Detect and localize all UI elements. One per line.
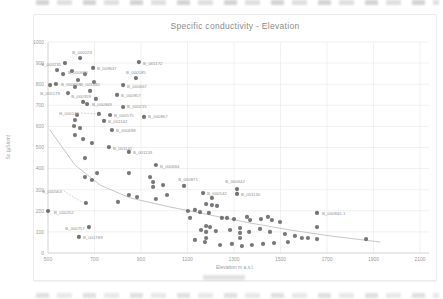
scatter-point (201, 191, 205, 195)
y-tick-label: 1000 (33, 39, 44, 45)
scatter-point (193, 208, 197, 212)
scatter-point (97, 112, 101, 116)
point-label: B_000542 (207, 191, 227, 196)
scatter-point (258, 227, 262, 231)
scatter-point (238, 226, 242, 230)
scatter-point (204, 224, 208, 228)
x-axis-title: Elevation m a.s.l. (33, 264, 437, 270)
point-label: B_000359 (71, 94, 91, 99)
scatter-point (95, 171, 99, 175)
point-label: B_001130 (241, 192, 261, 197)
scatter-point (259, 217, 263, 221)
scatter-point (283, 232, 287, 236)
scatter-point (151, 185, 155, 189)
point-label: B_001142 (108, 119, 128, 124)
scatter-point (248, 218, 252, 222)
point-label: B_001240 (80, 82, 100, 87)
scatter-point (77, 235, 81, 239)
point-label: B_001133 (133, 150, 153, 155)
scatter-point (76, 78, 80, 82)
scatter-point (220, 216, 224, 220)
point-label: B_000949 (92, 102, 112, 107)
selection-handle-smudge (203, 275, 245, 280)
scatter-point (270, 218, 274, 222)
scatter-point (66, 91, 70, 95)
point-label: B_000575 (114, 113, 134, 118)
scatter-point (238, 231, 242, 235)
point-label: B_000585 (126, 70, 146, 75)
x-tick-label: 1100 (182, 256, 193, 262)
point-label: B_000845-1 (322, 211, 346, 216)
scatter-point (204, 202, 208, 206)
x-tick-label: 500 (44, 256, 53, 262)
cutoff-text-bottom (36, 293, 439, 298)
scatter-point (208, 225, 212, 229)
scatter-point (81, 100, 85, 104)
scatter-point (300, 236, 304, 240)
scatter-point (235, 192, 239, 196)
scatter-point (198, 210, 202, 214)
scatter-point (238, 236, 242, 240)
scatter-point (225, 216, 229, 220)
scatter-point (161, 183, 165, 187)
point-label: B_000867 (148, 114, 168, 119)
scatter-point (88, 89, 92, 93)
y-tick-label: 100 (36, 229, 45, 235)
x-tick-label: 2100 (414, 256, 425, 262)
scatter-point (90, 178, 94, 182)
page-root: Specific conductivity - Elevation Sc (µS… (0, 0, 443, 299)
scatter-point (199, 228, 203, 232)
scatter-point (72, 124, 76, 128)
scatter-point (83, 156, 87, 160)
scatter-point (83, 175, 87, 179)
y-tick-label: 500 (36, 144, 45, 150)
point-label: B_001789 (83, 235, 103, 240)
scatter-point (73, 118, 77, 122)
scatter-point (293, 234, 297, 238)
scatter-point (87, 225, 91, 229)
scatter-point (315, 225, 319, 229)
scatter-point (81, 137, 85, 141)
scatter-point (207, 211, 211, 215)
scatter-point (218, 243, 222, 247)
scatter-point (78, 126, 82, 130)
scatter-point (215, 204, 219, 208)
scatter-point (54, 82, 58, 86)
point-label: B_001141 (113, 146, 133, 151)
scatter-point (268, 230, 272, 234)
scatter-point (204, 230, 208, 234)
scatter-point (228, 228, 232, 232)
scatter-point (186, 209, 190, 213)
scatter-point (245, 215, 249, 219)
scatter-point (261, 242, 265, 246)
point-label: B_000563 (42, 189, 62, 194)
y-tick-label: 200 (36, 208, 45, 214)
scatter-point (127, 150, 131, 154)
scatter-point (204, 236, 208, 240)
scatter-point (210, 196, 214, 200)
scatter-point (148, 175, 152, 179)
scatter-point (266, 215, 270, 219)
scatter-point (115, 93, 119, 97)
point-label: B_000145 (59, 111, 79, 116)
point-label: B_000698 (116, 128, 136, 133)
point-label: B_000757 (65, 226, 85, 231)
x-tick-label: 900 (137, 256, 146, 262)
scatter-point (107, 145, 111, 149)
scatter-point (127, 171, 131, 175)
scatter-point (46, 209, 50, 213)
x-tick-label: 700 (90, 256, 99, 262)
scatter-point (84, 201, 88, 205)
scatter-point (151, 180, 155, 184)
point-label: B_000223 (72, 50, 92, 55)
scatter-point (127, 193, 131, 197)
scatter-point (73, 133, 77, 137)
x-tick-label: 1300 (228, 256, 239, 262)
scatter-point (142, 115, 146, 119)
point-label: B_000215 (127, 104, 147, 109)
scatter-point (137, 60, 141, 64)
point-label: B_000252 (54, 210, 74, 215)
scatter-point (110, 128, 114, 132)
scatter-point (232, 217, 236, 221)
scatter-point (78, 56, 82, 60)
